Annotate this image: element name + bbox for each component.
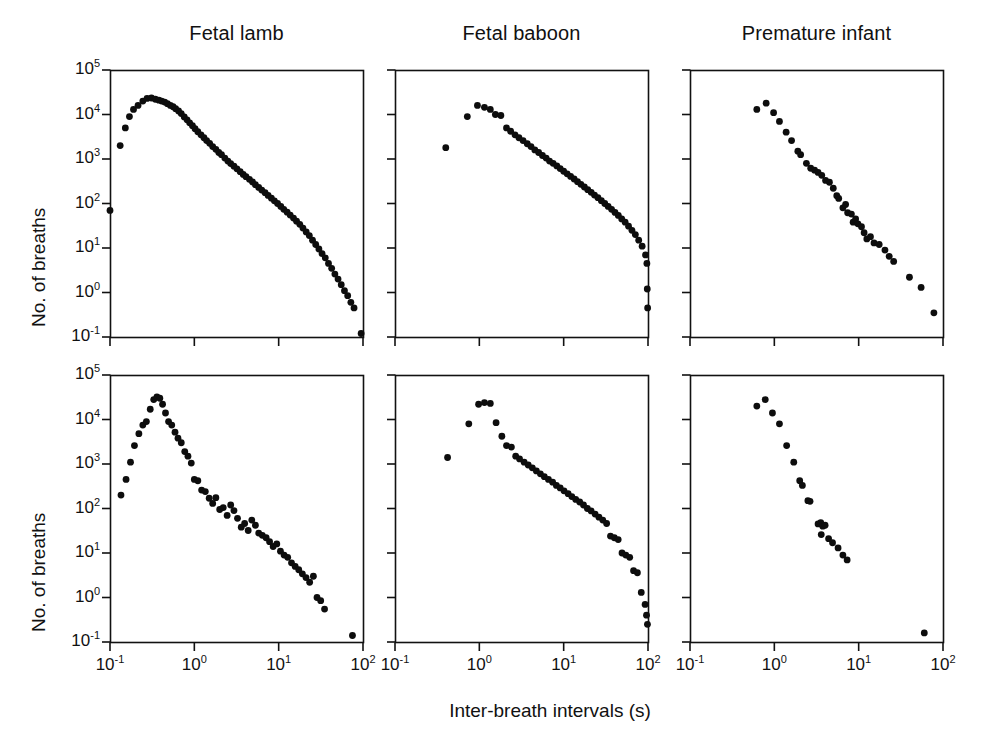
panel-title-2: Fetal baboon [375,22,668,45]
data-point [769,410,776,417]
data-point [156,395,163,402]
data-point [643,260,650,267]
data-point [185,453,192,460]
data-point [783,129,790,136]
y-tick-label: 101 [48,542,100,562]
data-point [644,621,651,628]
data-point [107,207,114,214]
data-point [126,113,133,120]
data-point [127,459,134,466]
data-point [797,151,804,158]
data-point [753,403,760,410]
y-axis-label-row1: No. of breaths [28,208,50,327]
data-point [643,612,650,619]
y-tick-label: 105 [48,59,100,79]
y-axis-label-row2: No. of breaths [28,513,50,632]
data-point [122,124,129,131]
data-point [162,410,169,417]
data-point [465,420,472,427]
data-point [273,541,280,548]
data-point [284,554,291,561]
data-point [835,545,842,552]
x-tick-label: 101 [538,655,590,675]
data-point [321,606,328,613]
data-point [644,305,651,312]
data-point [835,195,842,202]
data-point [642,251,649,258]
data-point [118,492,125,499]
x-tick-label: 10-1 [664,655,716,675]
data-point [508,444,515,451]
data-point [790,459,797,466]
data-point [143,418,150,425]
data-point [245,527,252,534]
x-tick-label: 100 [453,655,505,675]
data-point [168,422,175,429]
plot-top-left [110,70,365,339]
data-point [615,536,622,543]
data-point [783,442,790,449]
data-point [442,144,449,151]
data-point [776,118,783,125]
y-tick-label: 105 [48,364,100,384]
data-point [159,401,166,408]
data-point [890,258,897,265]
data-point [776,420,783,427]
data-point [861,229,868,236]
data-point [306,579,313,586]
data-point [475,401,482,408]
data-point [762,396,769,403]
data-point [317,597,324,604]
y-tick-label: 100 [48,587,100,607]
plot-top-middle [395,70,650,339]
data-point [842,201,849,208]
data-point [310,573,317,580]
data-point [644,286,651,293]
data-point [642,601,649,608]
plot-bottom-left [110,375,365,644]
y-tick-label: 10-1 [48,326,100,346]
data-point [638,589,645,596]
panel-title-1: Fetal lamb [90,22,383,45]
data-point [788,137,795,144]
data-point [830,185,837,192]
data-point [826,179,833,186]
data-point [497,112,504,119]
data-point [194,477,201,484]
data-point [858,223,865,230]
data-point [131,442,138,449]
data-point [209,500,216,507]
data-point [474,102,481,109]
data-point [822,522,829,529]
data-point [487,106,494,113]
y-tick-label: 10-1 [48,631,100,651]
data-point [626,554,633,561]
data-point [212,494,219,501]
data-point [481,399,488,406]
x-axis-label: Inter-breath intervals (s) [340,700,760,722]
data-point [123,476,130,483]
data-point [918,284,925,291]
data-point [763,100,770,107]
x-tick-label: 100 [748,655,800,675]
data-point [135,430,142,437]
data-point [867,233,874,240]
x-tick-label: 10-1 [369,655,421,675]
data-point [172,429,179,436]
y-tick-label: 100 [48,282,100,302]
data-point [634,569,641,576]
data-point [487,400,494,407]
data-point [799,482,806,489]
y-tick-label: 102 [48,498,100,518]
figure-root: Fetal lambFetal baboonPremature infantNo… [0,0,986,748]
x-tick-label: 10-1 [84,655,136,675]
data-point [639,243,646,250]
data-point [481,104,488,111]
x-tick-label: 101 [833,655,885,675]
data-point [351,305,358,312]
plot-bottom-right [690,375,945,644]
data-point [188,460,195,467]
data-point [844,556,851,563]
data-point [882,247,889,254]
data-point [818,531,825,538]
